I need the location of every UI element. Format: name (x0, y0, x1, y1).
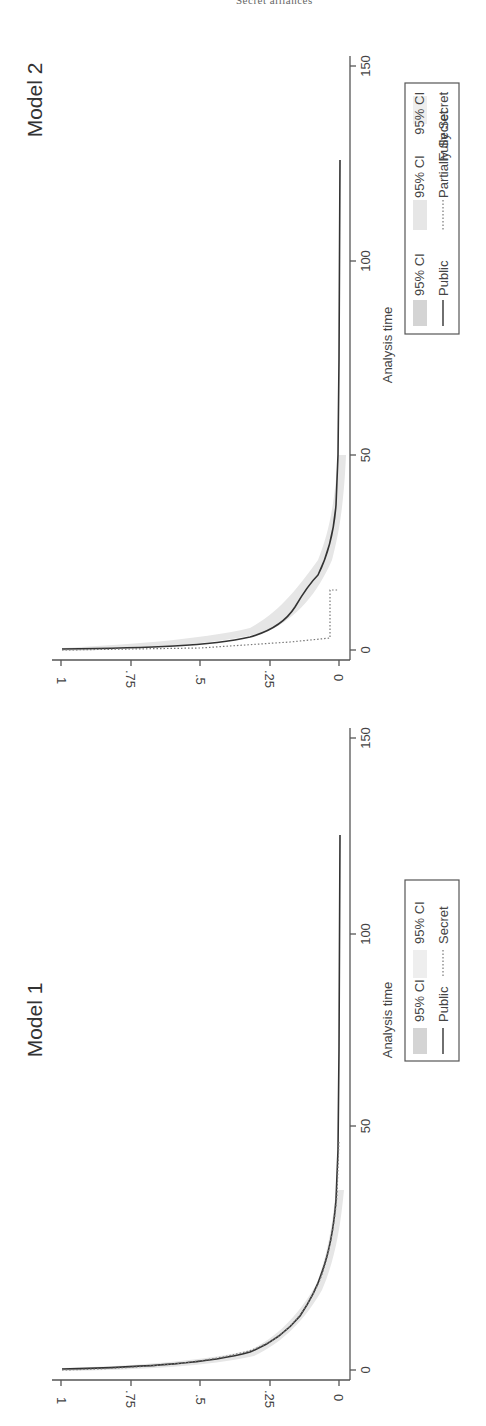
legend-swatch-ci (413, 1028, 427, 1054)
x-tick-label: 100 (358, 250, 373, 272)
legend-label: 95% CI (412, 901, 427, 944)
y-tick-label: 0 (331, 1394, 346, 1401)
legend-label: Public (436, 986, 451, 1022)
legend-label: 95% CI (412, 253, 427, 296)
legend-swatch-ci (413, 200, 427, 230)
x-tick-label: 0 (358, 646, 373, 653)
y-tick-label: .25 (262, 670, 277, 688)
x-tick-label: 0 (358, 1366, 373, 1373)
y-tick-label: 1 (54, 677, 69, 684)
x-tick-label: 100 (358, 923, 373, 945)
figure-canvas: Model 2 1 .75 .5 .25 0 0 50 100 150 Anal… (0, 0, 486, 1426)
panel-title: Model 1 (23, 983, 46, 1058)
legend-label: Secret (436, 906, 451, 944)
series-public (62, 835, 340, 1369)
legend-label: 95% CI (412, 92, 427, 135)
panel-title: Model 2 (23, 63, 46, 138)
legend-swatch-ci (413, 300, 427, 326)
y-tick-label: .75 (123, 1390, 138, 1408)
legend-label: Fully Secret (436, 92, 451, 161)
panel-model-2: Model 2 1 .75 .5 .25 0 0 50 100 150 Anal… (23, 55, 459, 688)
legend-label: Public (436, 260, 451, 296)
legend-swatch-ci (413, 950, 427, 978)
legend-label: 95% CI (412, 155, 427, 198)
ci-band (62, 455, 346, 651)
x-axis-title: Analysis time (380, 982, 395, 1059)
y-tick-label: 0 (331, 674, 346, 681)
y-tick-label: .75 (123, 670, 138, 688)
y-tick-label: 1 (54, 1397, 69, 1404)
y-tick-label: .5 (193, 1394, 208, 1405)
x-tick-label: 50 (358, 448, 373, 462)
x-tick-label: 150 (358, 55, 373, 77)
x-axis-title: Analysis time (380, 307, 395, 384)
y-tick-label: .25 (262, 1390, 277, 1408)
ci-band (62, 1190, 344, 1371)
series-public (62, 160, 340, 649)
series-secret (62, 1140, 339, 1370)
y-tick-label: .5 (193, 674, 208, 685)
x-tick-label: 150 (358, 727, 373, 749)
x-tick-label: 50 (358, 1119, 373, 1133)
legend-label: 95% CI (412, 979, 427, 1022)
panel-model-1: Model 1 1 .75 .5 .25 0 0 50 100 150 Anal… (23, 727, 459, 1408)
